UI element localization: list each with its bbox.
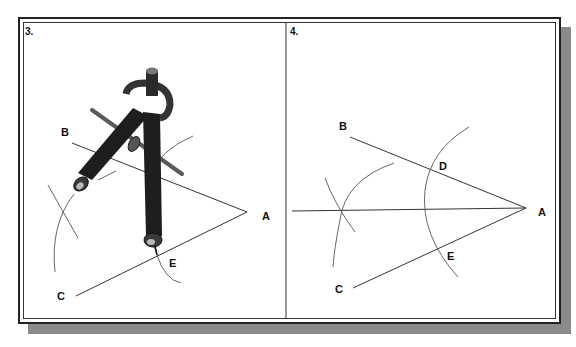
point-c-label: C [57,290,65,302]
compass-needle [155,246,157,255]
arc-fragment [98,171,116,180]
point-c-label: C [335,283,343,295]
arc-from-d [54,194,74,272]
ray-ab [350,137,526,208]
step-4-label: 4. [290,26,299,37]
ray-ac [353,208,526,288]
point-b-label: B [339,120,347,132]
construction-diagram: 3. [0,0,576,347]
point-d-label: D [439,160,447,172]
arc-from-e [325,178,355,232]
step-3-label: 3. [25,26,34,37]
point-a-label: A [538,206,546,218]
point-b-label: B [61,126,69,138]
compass-illustration [71,68,182,256]
point-e-label: E [169,257,176,269]
compass-right-foot-highlight [147,239,155,245]
angle-bisector [292,208,526,211]
point-e-label: E [447,250,454,262]
arc-from-e [48,185,78,238]
panel-3: 3. [25,26,270,302]
compass-right-leg [143,112,162,236]
compass-handle-top [146,68,158,75]
arc-from-d [333,163,394,267]
panel-4: 4. B D A E C [290,26,546,295]
point-a-label: A [262,210,270,222]
